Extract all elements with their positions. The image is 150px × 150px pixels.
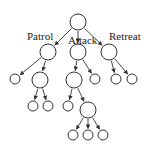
tree-svg: Patrol Attack Retreat xyxy=(0,0,150,150)
node-a1b2 xyxy=(83,130,93,140)
edge-attack-a1 xyxy=(75,61,76,71)
node-r2 xyxy=(127,74,137,84)
node-p2 xyxy=(32,72,48,88)
edge-retreat-r2 xyxy=(115,59,128,74)
edge-p2-p2a xyxy=(35,89,38,100)
node-a1b xyxy=(80,102,96,118)
edge-a1-a1a xyxy=(70,89,73,100)
node-r1 xyxy=(111,74,121,84)
node-p2b xyxy=(43,101,53,111)
edge-p2-p2b xyxy=(43,89,47,100)
edge-attack-a2 xyxy=(83,60,92,74)
edge-a1b-a1b3 xyxy=(93,118,100,130)
labels-layer: Patrol Attack Retreat xyxy=(27,30,141,46)
edge-a1-a1b xyxy=(78,88,84,101)
node-patrol xyxy=(40,44,56,60)
label-retreat: Retreat xyxy=(109,30,141,42)
node-a2 xyxy=(90,74,100,84)
node-p2a xyxy=(28,101,38,111)
node-root xyxy=(70,14,86,30)
edge-a1b-a1b1 xyxy=(76,118,83,130)
edge-retreat-r1 xyxy=(111,61,114,73)
node-a1a xyxy=(63,101,73,111)
node-a1b3 xyxy=(98,130,108,140)
behavior-tree-diagram: Patrol Attack Retreat xyxy=(0,0,150,150)
node-p1 xyxy=(10,74,20,84)
node-a1b1 xyxy=(68,130,78,140)
node-retreat xyxy=(101,44,117,60)
node-attack xyxy=(70,44,86,60)
node-a1 xyxy=(66,72,82,88)
label-patrol: Patrol xyxy=(27,30,53,42)
edge-patrol-p2 xyxy=(43,61,46,71)
label-attack: Attack xyxy=(68,34,98,46)
